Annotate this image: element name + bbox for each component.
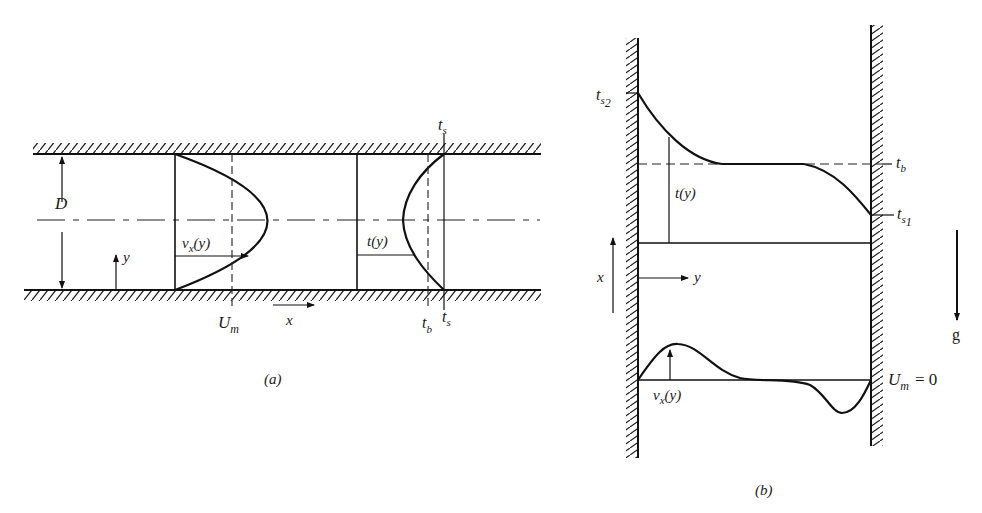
mean-velocity-label: Um bbox=[218, 313, 239, 336]
temperature-curve-left bbox=[638, 93, 722, 164]
velocity-profile-label: vx(y) bbox=[653, 387, 681, 406]
ts1-label: ts1 bbox=[897, 205, 912, 229]
figure-a: D y vx(y) Um x t(y) ts tb ts (a) bbox=[24, 116, 541, 388]
x-axis-label: x bbox=[596, 269, 604, 285]
right-wall bbox=[871, 25, 883, 446]
surface-temp-bottom-label: ts bbox=[442, 308, 451, 328]
velocity-parabola bbox=[175, 154, 268, 290]
ts2-label: ts2 bbox=[596, 86, 611, 110]
pipe-bottom-wall bbox=[24, 290, 541, 301]
diagram-canvas: D y vx(y) Um x t(y) ts tb ts (a) bbox=[0, 0, 982, 513]
x-axis-label: x bbox=[285, 312, 293, 328]
y-axis-label: y bbox=[121, 249, 130, 265]
temperature-curve bbox=[403, 154, 444, 290]
velocity-profile-label: vx(y) bbox=[182, 235, 210, 254]
gravity-label: g bbox=[952, 326, 960, 344]
temperature-profile-label: t(y) bbox=[367, 233, 388, 250]
surface-temp-top-label: ts bbox=[438, 116, 447, 136]
tb-label: tb bbox=[896, 154, 906, 174]
pipe-top-wall bbox=[33, 143, 541, 154]
caption-a: (a) bbox=[264, 371, 282, 388]
mean-velocity-label: Um= 0 bbox=[888, 370, 937, 393]
caption-b: (b) bbox=[755, 482, 773, 499]
y-axis-label: y bbox=[692, 269, 701, 285]
left-wall bbox=[626, 38, 638, 458]
figure-b: ts2 tb ts1 t(y) x y g vx(y) Um= 0 (b) bbox=[596, 25, 960, 499]
temperature-curve-right bbox=[804, 164, 871, 215]
temperature-profile-label: t(y) bbox=[675, 185, 696, 202]
bulk-temp-label: tb bbox=[422, 314, 432, 335]
diameter-label: D bbox=[54, 194, 68, 213]
